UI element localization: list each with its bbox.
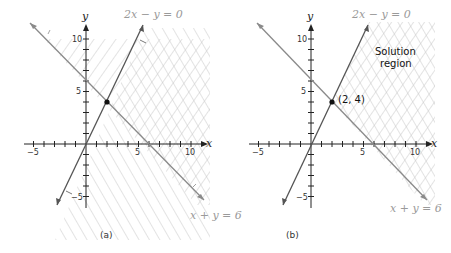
tick-x-neg5: −5	[27, 148, 39, 157]
tick-x-neg5: −5	[252, 148, 264, 157]
panel-a: −5 5 10 10 5 −5 x y 2x − y = 0 x + y = 6…	[24, 8, 242, 240]
figure: −5 5 10 10 5 −5 x y 2x − y = 0 x + y = 6…	[0, 0, 451, 253]
intersection-point	[104, 99, 109, 104]
caption-b: (b)	[286, 230, 299, 240]
tick-y-10: 10	[297, 35, 307, 44]
line-arrowhead-icon	[30, 23, 37, 29]
tick-x-5: 5	[360, 148, 365, 157]
intersection-label: (2, 4)	[338, 94, 365, 105]
tick-x-10: 10	[410, 148, 420, 157]
tick-y-10: 10	[72, 35, 82, 44]
equation-label-2x-minus-y: 2x − y = 0	[351, 8, 411, 21]
x-axis-label: x	[206, 137, 213, 150]
intersection-point	[329, 99, 334, 104]
tick-x-5: 5	[135, 148, 140, 157]
equation-label-x-plus-y: x + y = 6	[390, 202, 442, 215]
equation-label-2x-minus-y: 2x − y = 0	[123, 8, 183, 21]
tick-y-neg5: −5	[296, 193, 308, 202]
y-axis-arrow-icon	[83, 24, 89, 31]
tick-x-10: 10	[185, 148, 195, 157]
solution-region-label-line1: Solution	[375, 46, 416, 57]
tick-y-5: 5	[301, 87, 306, 96]
x-axis-label: x	[431, 137, 438, 150]
y-axis-label: y	[306, 10, 314, 23]
tick-y-5: 5	[76, 87, 81, 96]
equation-label-x-plus-y: x + y = 6	[190, 209, 242, 222]
solution-region-label-line2: region	[380, 58, 412, 69]
caption-a: (a)	[100, 230, 113, 240]
panel-b: −5 5 10 10 5 −5 x y (2, 4) Solution regi…	[249, 8, 442, 240]
y-axis-label: y	[81, 10, 89, 23]
tick-y-neg5: −5	[71, 193, 83, 202]
shade-direction-arrow-icon	[48, 30, 50, 34]
line-arrowhead-icon	[257, 23, 264, 29]
y-axis-arrow-icon	[308, 24, 314, 31]
